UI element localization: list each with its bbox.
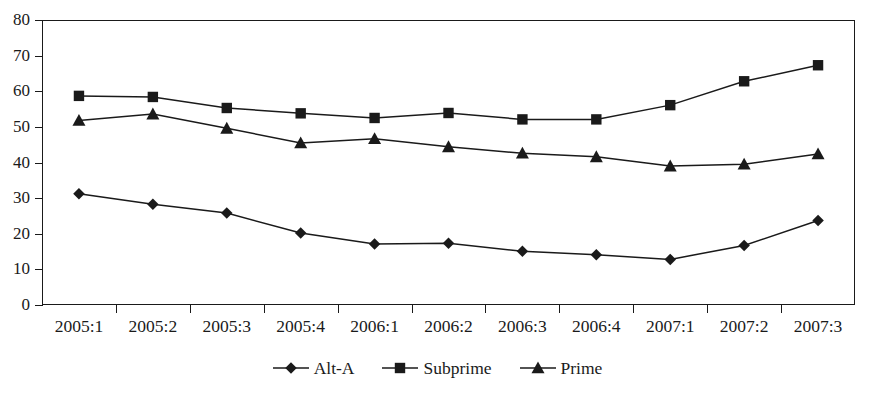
x-axis-tick-label: 2006:3	[498, 316, 547, 337]
y-axis-tick-mark	[35, 198, 43, 199]
y-axis-tick-label: 0	[22, 295, 31, 315]
y-axis-tick-label: 80	[13, 10, 30, 30]
y-axis-tick-label: 60	[13, 81, 30, 101]
y-axis-tick-mark	[35, 234, 43, 235]
line-chart: 01020304050607080 2005:12005:22005:32005…	[0, 0, 874, 396]
y-axis-tick-mark	[35, 127, 43, 128]
x-axis-tick-mark-line	[190, 305, 191, 313]
legend-item-subprime[interactable]: Subprime	[381, 358, 491, 378]
x-axis-tick-label: 2005:1	[55, 316, 104, 337]
x-axis-tick-mark-line	[781, 305, 782, 313]
x-axis-tick-label: 2006:2	[424, 316, 473, 337]
y-axis-tick-label: 50	[13, 117, 30, 137]
x-axis-tick-label: 2007:1	[646, 316, 695, 337]
x-axis-tick-mark-line	[338, 305, 339, 313]
y-axis-tick-mark	[35, 163, 43, 164]
y-axis-tick-mark	[35, 20, 43, 21]
x-axis-tick-mark-line	[559, 305, 560, 313]
legend-item-label: Alt-A	[314, 358, 355, 378]
y-axis-tick-label: 20	[13, 224, 30, 244]
x-axis-tick-label: 2006:1	[350, 316, 399, 337]
legend-item-label: Subprime	[423, 358, 491, 378]
x-axis-tick-label: 2005:2	[129, 316, 178, 337]
square-marker-icon	[381, 360, 419, 376]
x-axis-tick-label: 2005:3	[202, 316, 251, 337]
chart-legend: Alt-ASubprimePrime	[0, 358, 874, 378]
plot-area	[42, 20, 855, 305]
y-axis-tick-mark	[35, 305, 43, 306]
diamond-marker-icon	[272, 360, 310, 376]
y-axis-tick-label: 70	[13, 46, 30, 66]
y-axis-tick-mark	[35, 91, 43, 92]
y-axis-tick-label: 30	[13, 188, 30, 208]
y-axis-tick-label: 10	[13, 259, 30, 279]
x-axis-tick-mark-line	[116, 305, 117, 313]
x-axis-tick-mark-line	[485, 305, 486, 313]
y-axis-tick-mark	[35, 269, 43, 270]
legend-item-prime[interactable]: Prime	[519, 358, 603, 378]
x-axis-tick-mark-line	[264, 305, 265, 313]
legend-item-alt-a[interactable]: Alt-A	[272, 358, 355, 378]
x-axis-tick-mark-line	[707, 305, 708, 313]
x-axis-tick-mark-line	[412, 305, 413, 313]
y-axis-tick-label: 40	[13, 153, 30, 173]
x-axis-tick-label: 2006:4	[572, 316, 621, 337]
y-axis-tick-mark	[35, 56, 43, 57]
legend-item-label: Prime	[561, 358, 603, 378]
x-axis-tick-label: 2007:3	[794, 316, 843, 337]
x-axis-tick-label: 2007:2	[720, 316, 769, 337]
triangle-marker-icon	[519, 360, 557, 376]
x-axis-tick-mark-line	[633, 305, 634, 313]
x-axis-tick-label: 2005:4	[276, 316, 325, 337]
